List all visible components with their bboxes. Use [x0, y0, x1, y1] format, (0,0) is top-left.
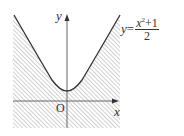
- equation-numerator: x2+1: [135, 14, 159, 30]
- y-axis-arrow-icon: [65, 14, 70, 21]
- origin-label: O: [56, 101, 65, 116]
- equation-fraction: x2+1 2: [135, 14, 159, 43]
- y-axis-label: y: [56, 8, 62, 24]
- x-axis-label: x: [114, 104, 120, 120]
- equation-denominator: 2: [144, 30, 150, 43]
- equation-label: y = x2+1 2: [121, 14, 159, 43]
- numerator-rest: +1: [145, 16, 158, 30]
- equation-equals: =: [127, 21, 134, 37]
